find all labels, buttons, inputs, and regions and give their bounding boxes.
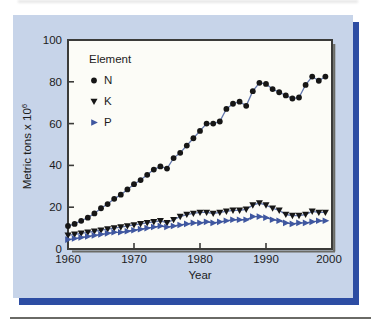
series-N-point — [138, 177, 144, 183]
series-N-point — [151, 167, 157, 173]
series-N-point — [303, 82, 309, 88]
series-N-point — [323, 74, 329, 80]
series-N-point — [85, 215, 91, 221]
x-axis-title: Year — [188, 269, 211, 281]
y-tick-label: 40 — [49, 159, 62, 171]
series-N-point — [316, 78, 322, 84]
series-N-point — [263, 81, 269, 87]
y-tick-label: 80 — [49, 76, 62, 88]
page: 02040608010019601970198019902000YearMetr… — [0, 0, 373, 325]
series-N-point — [191, 135, 197, 141]
x-tick-label: 2000 — [316, 253, 342, 265]
x-tick-label: 1960 — [55, 253, 81, 265]
y-tick-label: 20 — [49, 201, 62, 213]
series-N-point — [204, 121, 210, 127]
series-N-point — [131, 181, 137, 187]
legend-P-label: P — [104, 116, 112, 128]
page-divider-rule — [10, 317, 371, 319]
series-N-point — [105, 201, 111, 207]
series-N-point — [217, 119, 223, 125]
series-N-point — [171, 155, 177, 161]
x-tick-label: 1980 — [187, 253, 213, 265]
series-N-point — [177, 150, 183, 156]
series-N-point — [184, 143, 190, 149]
y-tick-label: 60 — [49, 118, 62, 130]
series-N-point — [125, 187, 131, 193]
series-N-point — [283, 92, 289, 98]
series-N-point — [111, 196, 117, 202]
y-tick-label: 100 — [43, 34, 62, 46]
series-N-point — [158, 164, 164, 170]
legend-K-label: K — [104, 95, 112, 107]
series-N-point — [72, 221, 78, 227]
series-N-point — [309, 74, 315, 80]
x-tick-label: 1990 — [253, 253, 279, 265]
series-N-point — [257, 80, 263, 86]
series-N-point — [197, 128, 203, 134]
series-N-point — [118, 192, 124, 198]
series-N-point — [237, 99, 243, 105]
series-N-point — [250, 88, 256, 94]
series-N-point — [210, 121, 216, 127]
series-N-point — [270, 86, 276, 92]
series-N-point — [224, 106, 230, 112]
series-N-point — [164, 166, 170, 172]
legend-title: Element — [89, 53, 132, 65]
series-N-point — [144, 172, 150, 178]
legend-N-label: N — [104, 74, 112, 86]
legend-N-marker — [91, 78, 97, 84]
series-N-point — [290, 96, 296, 102]
series-N-point — [98, 205, 104, 211]
fertilizer-use-chart: 02040608010019601970198019902000YearMetr… — [0, 0, 373, 325]
series-N-point — [276, 89, 282, 95]
series-N-point — [243, 103, 249, 109]
series-N-point — [296, 95, 302, 101]
series-N-point — [92, 211, 98, 217]
series-N-point — [78, 218, 84, 224]
series-N-point — [230, 101, 236, 107]
x-tick-label: 1970 — [121, 253, 147, 265]
series-N-point — [65, 223, 71, 229]
y-axis-title: Metric tons x 106 — [20, 103, 33, 189]
